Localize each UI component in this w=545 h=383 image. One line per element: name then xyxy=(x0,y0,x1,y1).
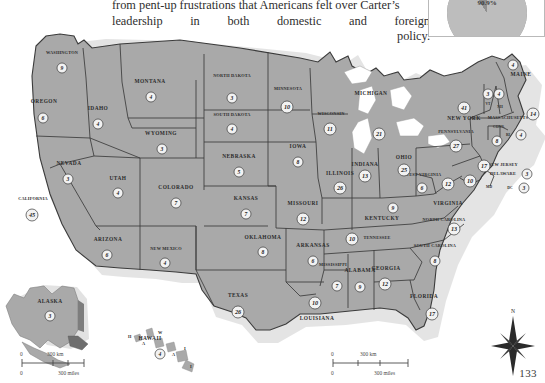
main-scalebar: 0 300 km 0 300 miles xyxy=(331,351,408,376)
state-label-pa: PENNSYLVANIA xyxy=(438,129,474,134)
vote-count: 45 xyxy=(28,211,35,218)
vote-count: 17 xyxy=(429,310,436,317)
vote-bubble-nm: 4 xyxy=(160,258,170,268)
alaska-scale-miles-label: 300 miles xyxy=(58,370,79,376)
state-label-wv: WEST VIRGINIA xyxy=(405,172,442,177)
state-label-ca: CALIFORNIA xyxy=(18,196,48,201)
vote-count: 21 xyxy=(375,130,382,137)
state-label-hi: HAWAII xyxy=(138,335,161,341)
vote-bubble-al: 9 xyxy=(355,282,365,292)
vote-bubble-az: 6 xyxy=(102,250,112,260)
state-label-co: COLORADO xyxy=(158,184,193,190)
vote-bubble-wy: 3 xyxy=(157,144,167,154)
vote-count: 4 xyxy=(163,260,167,266)
state-label-wi: WISCONSIN xyxy=(318,111,346,116)
vote-bubble-de: 3 xyxy=(522,169,532,179)
vote-bubble-vt: 3 xyxy=(483,89,493,99)
vote-count: 8 xyxy=(297,159,300,165)
vote-count: 9 xyxy=(61,65,64,71)
vote-count: 4 xyxy=(116,190,120,196)
state-label-wa: WASHINGTON xyxy=(46,50,79,55)
vote-bubble-pa: 27 xyxy=(450,140,462,152)
state-label-ma: MASSACHUSETTS xyxy=(488,115,529,120)
vote-count: 4 xyxy=(519,132,523,138)
vote-count: 12 xyxy=(382,280,388,287)
vote-bubble-id: 4 xyxy=(93,119,103,129)
vote-bubble-ny: 41 xyxy=(458,102,470,114)
vote-count: 10 xyxy=(349,235,355,242)
vote-count: 12 xyxy=(300,215,306,222)
vote-count: 4 xyxy=(158,351,162,357)
vote-count: 26 xyxy=(336,184,344,191)
state-label-or: OREGON xyxy=(31,98,58,104)
vote-bubble-va: 12 xyxy=(442,178,454,190)
vote-count: 6 xyxy=(312,258,315,264)
alaska-scale-km-zero: 0 xyxy=(20,351,23,357)
vote-bubble-ma: 14 xyxy=(527,108,539,120)
vote-count: 7 xyxy=(245,211,248,217)
vote-count: 25 xyxy=(400,166,407,173)
vote-bubble-mo: 12 xyxy=(297,213,309,225)
vote-bubble-nc: 13 xyxy=(448,223,460,235)
state-label-nj: NEW JERSEY xyxy=(488,162,518,167)
vote-count: 5 xyxy=(238,169,241,175)
state-label-mi: MICHIGAN xyxy=(355,90,388,96)
vote-bubble-ks: 7 xyxy=(241,209,251,219)
us-electoral-map: 0 300 km 0 300 miles 0 300 km 0 300 mile… xyxy=(0,18,545,383)
vote-bubble-oh: 25 xyxy=(398,164,410,176)
vote-count: 3 xyxy=(66,176,70,182)
vote-count: 3 xyxy=(522,185,526,191)
vote-bubble-ak: 3 xyxy=(45,311,55,321)
vote-count: 10 xyxy=(312,299,318,306)
hawaii-letter: A xyxy=(142,341,146,346)
state-label-mt: MONTANA xyxy=(134,78,165,84)
state-label-ct: CONN. xyxy=(493,125,505,129)
state-label-in: INDIANA xyxy=(352,161,379,167)
vote-bubble-wa: 9 xyxy=(57,63,67,73)
state-label-sd: SOUTH DAKOTA xyxy=(213,112,251,117)
vote-bubble-mi: 21 xyxy=(373,128,385,140)
state-label-ne: NEBRASKA xyxy=(222,153,256,159)
state-label-ms: MISSISSIPPI xyxy=(319,262,347,267)
vote-bubble-sd: 4 xyxy=(227,124,237,134)
vote-count: 4 xyxy=(149,94,153,100)
vote-count: 9 xyxy=(392,205,395,211)
vote-bubble-hi: 4 xyxy=(155,349,165,359)
vote-count: 4 xyxy=(96,121,100,127)
hawaii-letter: I xyxy=(184,346,186,351)
state-label-ri: RI xyxy=(506,133,511,137)
vote-count: 17 xyxy=(481,162,488,169)
state-label-ut: UTAH xyxy=(110,175,127,181)
main-scale-km-label: 300 km xyxy=(360,351,377,357)
state-label-az: ARIZONA xyxy=(94,236,123,242)
state-label-ks: KANSAS xyxy=(234,195,259,201)
vote-bubble-mn: 10 xyxy=(281,101,293,113)
vote-count: 3 xyxy=(486,91,490,97)
state-label-nm: NEW MEXICO xyxy=(150,246,182,251)
vote-bubble-wi: 11 xyxy=(324,123,336,135)
vote-count: 6 xyxy=(42,115,45,121)
state-label-id: IDAHO xyxy=(88,105,109,111)
state-label-sc: SOUTH CAROLINA xyxy=(414,243,457,248)
hawaii-letter: I xyxy=(190,364,192,369)
main-scale-km-zero: 0 xyxy=(331,351,334,357)
state-label-il: ILLINOIS xyxy=(326,170,354,176)
vote-bubble-me: 4 xyxy=(508,60,518,70)
vote-bubble-nd: 3 xyxy=(227,93,237,103)
vote-bubble-ne: 5 xyxy=(234,167,244,177)
state-label-nc: NORTH CAROLINA xyxy=(423,217,467,222)
state-label-oh: OHIO xyxy=(396,154,412,160)
vote-bubble-ut: 4 xyxy=(113,188,123,198)
state-label-ok: OKLAHOMA xyxy=(245,234,282,240)
vote-count: 3 xyxy=(48,313,52,319)
vote-bubble-ri: 4 xyxy=(516,130,526,140)
vote-count: 7 xyxy=(175,200,178,206)
main-scale-miles-label: 300 miles xyxy=(374,370,395,376)
vote-bubble-or: 6 xyxy=(38,113,48,123)
vote-bubble-co: 7 xyxy=(171,198,181,208)
state-label-mo: MISSOURI xyxy=(288,200,319,206)
state-label-ny: NEW YORK xyxy=(447,115,481,121)
vote-bubble-md: 10 xyxy=(464,175,476,187)
vote-count: 8 xyxy=(434,258,437,264)
vote-count: 6 xyxy=(106,252,109,258)
